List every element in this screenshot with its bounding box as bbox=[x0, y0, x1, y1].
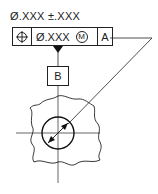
position-icon bbox=[16, 31, 28, 43]
tolerance-cell: Ø.XXX M bbox=[31, 28, 97, 45]
mmc-modifier-icon: M bbox=[76, 31, 88, 43]
feature-control-frame: Ø.XXX M A bbox=[12, 27, 113, 46]
datum-feature-box: B bbox=[47, 66, 69, 86]
position-symbol-cell bbox=[13, 28, 31, 45]
datum-reference-cell: A bbox=[97, 28, 112, 45]
tolerance-value: Ø.XXX bbox=[36, 31, 70, 43]
part-outline bbox=[30, 96, 101, 166]
dimension-text: Ø.XXX ±.XXX bbox=[10, 10, 80, 22]
